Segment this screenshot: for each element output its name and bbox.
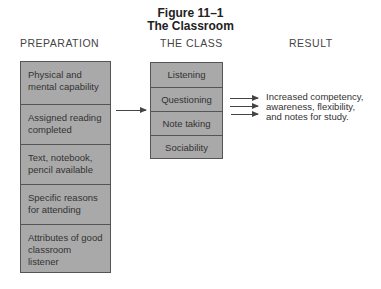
- class-box: Listening Questioning Note taking Sociab…: [150, 62, 223, 159]
- class-item: Note taking: [151, 111, 222, 135]
- preparation-box: Physical and mental capability Assigned …: [20, 61, 111, 273]
- arrow-right-icon: [231, 114, 258, 115]
- preparation-item: Specific reasons for attending: [21, 184, 110, 224]
- class-item: Listening: [151, 63, 222, 87]
- arrow-right-icon: [116, 110, 146, 111]
- arrow-right-icon: [230, 106, 258, 107]
- class-item: Questioning: [151, 87, 222, 111]
- preparation-item: Attributes of good classroom listener: [21, 224, 110, 272]
- column-heading-preparation: PREPARATION: [20, 37, 99, 49]
- preparation-item: Text, notebook, pencil available: [21, 144, 110, 184]
- class-item: Sociability: [151, 135, 222, 158]
- arrow-right-icon: [230, 98, 258, 99]
- result-line: and notes for study.: [266, 112, 364, 122]
- figure-title: The Classroom: [0, 19, 381, 33]
- column-heading-the-class: THE CLASS: [160, 37, 223, 49]
- column-heading-result: RESULT: [289, 37, 333, 49]
- result-text: Increased competency, awareness, flexibi…: [266, 92, 364, 122]
- figure-number: Figure 11–1: [0, 6, 381, 20]
- preparation-item: Physical and mental capability: [21, 62, 110, 104]
- preparation-item: Assigned reading completed: [21, 104, 110, 144]
